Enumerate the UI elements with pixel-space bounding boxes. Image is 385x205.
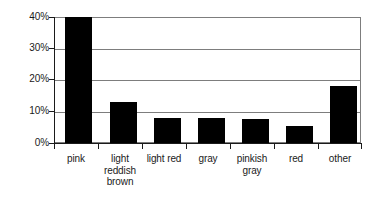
x-axis-label-light-reddish-brown-line-0: light bbox=[98, 153, 142, 165]
x-axis-line bbox=[54, 143, 362, 144]
x-tick-5 bbox=[274, 144, 275, 149]
x-axis-label-other: other bbox=[318, 153, 362, 165]
x-tick-6 bbox=[318, 144, 319, 149]
bar-light-reddish-brown bbox=[110, 102, 137, 143]
x-tick-4 bbox=[230, 144, 231, 149]
bar-gray bbox=[198, 118, 225, 143]
x-axis-label-light-reddish-brown: light reddish brown bbox=[98, 153, 142, 188]
y-axis-label-30: 30% bbox=[9, 43, 49, 53]
bar-other bbox=[330, 86, 357, 143]
x-axis-label-light-reddish-brown-line-2: brown bbox=[98, 176, 142, 188]
bar-pink bbox=[65, 17, 92, 143]
bar-pinkish-gray bbox=[242, 119, 269, 143]
bar-light-red bbox=[154, 118, 181, 143]
bar-chart: 40% 30% 20% 10% 0% pink light reddish br… bbox=[0, 0, 385, 205]
x-tick-0 bbox=[54, 144, 55, 149]
x-axis-label-gray-line-0: gray bbox=[186, 153, 230, 165]
y-tick-20 bbox=[49, 79, 54, 80]
x-axis-label-red: red bbox=[274, 153, 318, 165]
y-axis-line bbox=[54, 17, 55, 143]
x-axis-label-pink: pink bbox=[54, 153, 98, 165]
y-axis-label-20: 20% bbox=[9, 74, 49, 84]
y-tick-30 bbox=[49, 48, 54, 49]
y-axis-label-10: 10% bbox=[9, 106, 49, 116]
x-tick-2 bbox=[142, 144, 143, 149]
x-axis-label-light-red: light red bbox=[142, 153, 186, 165]
x-axis-label-pinkish-gray-line-1: gray bbox=[230, 165, 274, 177]
x-axis-label-red-line-0: red bbox=[274, 153, 318, 165]
x-axis-label-light-red-line-0: light red bbox=[142, 153, 186, 165]
x-axis-label-pinkish-gray-line-0: pinkish bbox=[230, 153, 274, 165]
bars-layer bbox=[54, 17, 361, 143]
y-axis-label-40: 40% bbox=[9, 12, 49, 22]
y-tick-10 bbox=[49, 111, 54, 112]
x-axis-label-pinkish-gray: pinkish gray bbox=[230, 153, 274, 176]
x-axis-label-gray: gray bbox=[186, 153, 230, 165]
x-tick-1 bbox=[98, 144, 99, 149]
x-axis-label-other-line-0: other bbox=[318, 153, 362, 165]
x-axis-label-pink-line-0: pink bbox=[54, 153, 98, 165]
bar-red bbox=[286, 126, 313, 143]
x-axis-label-light-reddish-brown-line-1: reddish bbox=[98, 165, 142, 177]
y-tick-40 bbox=[49, 17, 54, 18]
x-tick-7 bbox=[361, 144, 362, 149]
x-tick-3 bbox=[186, 144, 187, 149]
y-axis-label-0: 0% bbox=[9, 138, 49, 148]
